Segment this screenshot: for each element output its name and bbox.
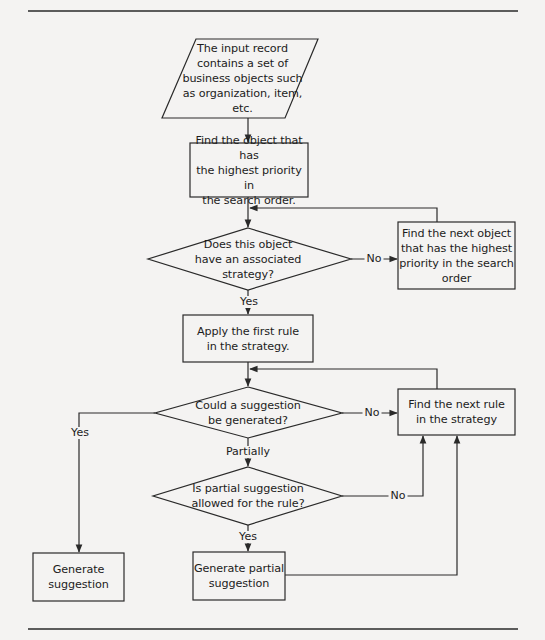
find-next-rule-text: Find the next rule in the strategy [398,389,515,435]
find-next-object-text: Find the next object that has the highes… [398,222,515,289]
could-generate-text: Could a suggestion be generated? [178,396,318,430]
label-no-strategy: No [365,253,384,265]
apply-first-rule-text: Apply the first rule in the strategy. [183,315,313,362]
partial-allowed-text: Is partial suggestion allowed for the ru… [173,479,323,513]
generate-suggestion-text: Generate suggestion [33,553,124,601]
label-yes-suggestion: Yes [69,427,91,439]
label-no-partial: No [389,490,408,502]
generate-partial-text: Generate partial suggestion [193,552,285,600]
edge-next-object-loop [250,208,437,222]
has-strategy-text: Does this object have an associated stra… [178,236,318,282]
edge-next-rule-loop [250,369,437,389]
label-no-suggestion: No [363,407,382,419]
find-highest-text: Find the object that has the highest pri… [190,143,308,197]
label-partially: Partially [224,446,272,458]
input-text: The input record contains a set of busin… [180,40,305,117]
edge-partial-no [342,436,423,496]
label-yes-strategy: Yes [238,296,260,308]
label-yes-partial: Yes [237,531,259,543]
